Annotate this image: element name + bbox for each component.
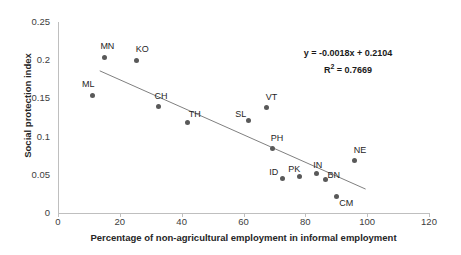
x-tick-label: 120	[414, 216, 444, 227]
data-point-label: CH	[154, 91, 167, 101]
data-point-label: NE	[354, 145, 367, 155]
data-point	[102, 55, 107, 60]
x-axis-title: Percentage of non-agricultural employmen…	[58, 232, 429, 243]
data-point	[334, 194, 339, 199]
scatter-chart: 00.050.10.150.20.25 020406080100120 MLMN…	[0, 0, 461, 255]
data-point-label: TH	[189, 109, 201, 119]
x-tick-label: 60	[229, 216, 259, 227]
x-tick-label: 40	[167, 216, 197, 227]
data-point	[352, 158, 357, 163]
y-axis-title: Social protection index	[22, 31, 33, 181]
data-point	[246, 118, 251, 123]
r-squared-text: R2 = 0.7669	[283, 60, 413, 77]
y-tick-label: 0.25	[6, 17, 50, 27]
data-point	[156, 104, 161, 109]
data-point	[297, 174, 302, 179]
data-point-label: ML	[82, 79, 95, 89]
data-point	[185, 120, 190, 125]
data-point-label: PK	[288, 164, 300, 174]
data-point	[280, 176, 285, 181]
regression-annotation: y = -0.0018x + 0.2104 R2 = 0.7669	[283, 47, 413, 77]
data-point-label: BN	[327, 170, 340, 180]
data-point	[314, 171, 319, 176]
data-point-label: PH	[271, 133, 284, 143]
data-point	[90, 93, 95, 98]
r-squared-value: = 0.7669	[334, 65, 372, 75]
data-point-label: CM	[339, 198, 353, 208]
data-point-label: SL	[235, 109, 246, 119]
data-point	[264, 105, 269, 110]
x-tick-label: 20	[105, 216, 135, 227]
data-point-label: VT	[266, 92, 278, 102]
y-axis-line	[58, 22, 59, 214]
regression-equation: y = -0.0018x + 0.2104	[283, 47, 413, 60]
data-point-label: MN	[100, 41, 114, 51]
data-point-label: ID	[269, 167, 278, 177]
data-point	[134, 58, 139, 63]
data-point	[270, 146, 275, 151]
data-point-label: KO	[136, 44, 149, 54]
x-tick-label: 0	[43, 216, 73, 227]
data-point-label: IN	[313, 160, 322, 170]
plot-area: 00.050.10.150.20.25 020406080100120 MLMN…	[0, 0, 461, 255]
x-tick-label: 80	[290, 216, 320, 227]
x-tick-label: 100	[352, 216, 382, 227]
